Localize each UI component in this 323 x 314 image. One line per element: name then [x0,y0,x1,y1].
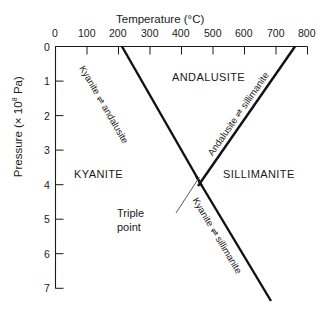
y-tick-label-3: 3 [44,145,50,156]
region-label-andalusite: ANDALUSITE [172,72,245,83]
y-tick-label-0: 0 [44,42,50,53]
x-tick-label-700: 700 [267,28,285,39]
x-tick-label-400: 400 [172,28,190,39]
phase-diagram-figure: Temperature (°C) Pressure (× 108 Pa) 0 1… [0,0,323,314]
y-axis-title: Pressure (× 108 Pa) [11,67,24,187]
region-label-kyanite: KYANITE [74,169,123,180]
y-axis-title-base: Pressure (× 10 [12,101,24,177]
x-tick-label-800: 800 [298,28,316,39]
annotation-triple-point-line2: point [117,222,141,233]
region-label-sillimanite: SILLIMANITE [223,169,295,180]
x-tick-label-200: 200 [109,28,127,39]
y-tick-label-7: 7 [44,283,50,294]
x-axis-title: Temperature (°C) [116,14,204,26]
y-tick-label-4: 4 [44,180,50,191]
boundary-kyanite-andalusite [122,47,202,187]
y-axis-title-tail: Pa) [12,76,24,97]
y-tick-label-2: 2 [44,111,50,122]
y-tick-label-6: 6 [44,249,50,260]
y-axis-title-exponent: 8 [10,97,19,101]
y-axis-ticks [56,47,64,289]
x-tick-label-500: 500 [204,28,222,39]
boundary-andalusite-sillimanite [198,47,295,187]
annotation-triple-point-line1: Triple [117,208,144,219]
x-tick-label-100: 100 [78,28,96,39]
x-axis-ticks [56,47,308,55]
boundary-kyanite-sillimanite [196,176,271,301]
y-tick-label-5: 5 [44,214,50,225]
x-tick-label-600: 600 [235,28,253,39]
x-tick-label-300: 300 [141,28,159,39]
y-tick-label-1: 1 [44,76,50,87]
x-tick-label-0: 0 [52,28,58,39]
